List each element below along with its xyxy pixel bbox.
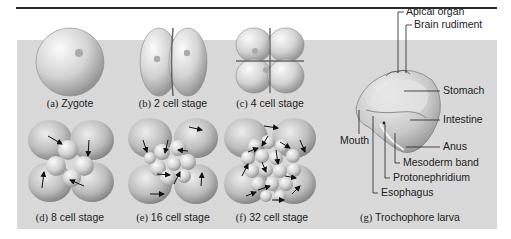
caption-letter: (e) [136,212,148,223]
caption-title: 16 cell stage [151,211,210,223]
label-apical-organ: Apical organ [406,5,464,17]
caption-letter: (d) [36,212,48,223]
caption-title: 32 cell stage [249,211,308,223]
label-intestine: Intestine [443,113,483,125]
caption-title: 2 cell stage [154,97,207,109]
caption-4-cell: (c) 4 cell stage [236,97,304,109]
four-cell-illustration [236,28,304,93]
label-esophagus: Esophagus [381,186,434,198]
label-stomach: Stomach [443,84,484,96]
caption-letter: (f) [236,212,247,223]
thirty-two-cell-illustration [224,118,316,204]
caption-16-cell: (e) 16 cell stage [136,211,210,223]
caption-32-cell: (f) 32 cell stage [236,211,308,223]
caption-title: 4 cell stage [251,97,304,109]
zygote-illustration [36,28,104,96]
label-mouth: Mouth [340,134,369,146]
embryo-illustrations [0,0,511,239]
two-cell-illustration [140,28,207,96]
caption-title: Trochophore larva [375,211,460,223]
label-protonephridium: Protonephridium [393,171,470,183]
label-mesoderm-band: Mesoderm band [403,156,479,168]
eight-cell-illustration [28,120,114,202]
caption-zygote: (a) Zygote [47,97,94,109]
caption-title: 8 cell stage [51,211,104,223]
caption-letter: (a) [47,98,59,109]
label-brain-rudiment: Brain rudiment [414,18,482,30]
caption-letter: (b) [139,98,151,109]
label-anus: Anus [443,140,467,152]
caption-2-cell: (b) 2 cell stage [139,97,207,109]
caption-title: Zygote [61,97,93,109]
caption-letter: (c) [236,98,248,109]
caption-trochophore-larva: (g) Trochophore larva [360,211,460,223]
sixteen-cell-illustration [128,118,218,204]
caption-letter: (g) [360,212,372,223]
caption-8-cell: (d) 8 cell stage [36,211,104,223]
